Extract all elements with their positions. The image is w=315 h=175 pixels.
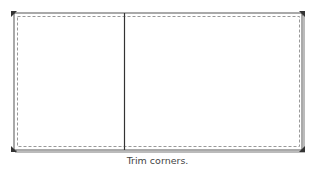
trim-diagram (0, 0, 315, 175)
diagram-caption: Trim corners. (0, 155, 315, 166)
outer-outline (14, 13, 302, 150)
